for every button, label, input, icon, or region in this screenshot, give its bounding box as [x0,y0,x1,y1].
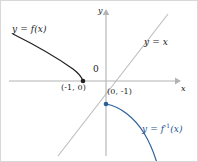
origin-label: 0 [93,65,99,74]
y-axis-label: y [98,7,103,15]
x-axis-label: x [181,85,186,93]
inverse-function-graph-figure: y = f(x) y x y = x 0 (-1, 0) (0, -1) y =… [0,0,198,162]
point-b-label: (0, -1) [107,88,132,96]
identity-line-label: y = x [144,38,168,47]
inverse-function-label: y = f-1(x) [142,125,183,134]
function-label: y = f(x) [12,25,47,34]
inverse-label-tail: (x) [170,124,182,134]
inverse-label-main: y = f [142,124,164,134]
point-marker-zero-minus-one [104,102,109,107]
function-curve [13,34,83,81]
y-axis-arrow-icon [103,9,110,15]
point-a-label: (-1, 0) [61,84,86,92]
